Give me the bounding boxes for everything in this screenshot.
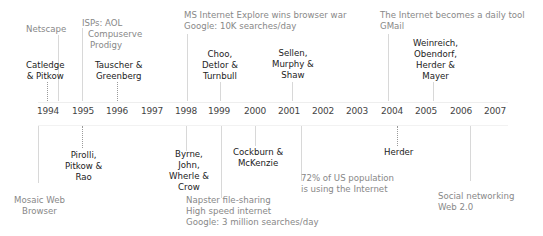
- year-label: 1996: [102, 106, 132, 116]
- author-line: Murphy &: [272, 59, 314, 70]
- connector-line: [220, 82, 221, 101]
- author-label-pirolli-pitkow-rao: Pirolli, Pitkow & Rao: [65, 150, 102, 183]
- year-label: 2007: [480, 106, 510, 116]
- event-line: MS Internet Explore wins browser war: [184, 10, 346, 21]
- connector-line: [38, 126, 39, 183]
- author-label-byrne-john-wherle-crow: Byrne, John, Wherle & Crow: [169, 149, 209, 193]
- author-line: Greenberg: [95, 71, 142, 82]
- year-label: 1995: [68, 106, 98, 116]
- author-label-herder: Herder: [384, 147, 413, 158]
- author-line: & Pitkow: [26, 71, 65, 82]
- author-line: Byrne,: [169, 149, 209, 160]
- year-label: 1994: [33, 106, 63, 116]
- event-line: Google: 10K searches/day: [184, 21, 346, 32]
- author-line: Crow: [169, 182, 209, 193]
- event-line: Compuserve: [82, 29, 142, 40]
- author-line: Turnbull: [202, 71, 238, 82]
- year-label: 1999: [204, 106, 234, 116]
- author-line: Detlor &: [202, 60, 238, 71]
- timeline-axis-bottom: [38, 125, 508, 126]
- year-label: 2006: [446, 106, 476, 116]
- author-label-cockburn-mckenzie: Cockburn & McKenzie: [233, 147, 283, 169]
- connector-line: [388, 34, 389, 101]
- connector-line: [186, 126, 187, 151]
- author-line: Cockburn &: [233, 147, 283, 158]
- connector-line: [187, 34, 188, 101]
- event-line: Browser: [14, 206, 65, 217]
- author-line: Choo,: [202, 49, 238, 60]
- event-label-isps: ISPs: AOL Compuserve Prodigy: [82, 18, 142, 51]
- author-label-choo-detlor-turnbull: Choo, Detlor & Turnbull: [202, 49, 238, 82]
- year-label: 1998: [171, 106, 201, 116]
- connector-line: [47, 82, 48, 101]
- author-label-tauscher-greenberg: Tauscher & Greenberg: [95, 60, 142, 82]
- author-line: Pitkow &: [65, 161, 102, 172]
- event-line: The Internet becomes a daily tool: [380, 10, 525, 21]
- author-label-sellen-murphy-shaw: Sellen, Murphy & Shaw: [272, 48, 314, 81]
- connector-line: [397, 126, 398, 146]
- event-line: Netscape: [26, 24, 66, 35]
- event-line: Napster file-sharing: [186, 195, 319, 206]
- event-line: Mosaic Web: [14, 195, 65, 206]
- author-line: Shaw: [272, 70, 314, 81]
- event-line: Prodigy: [82, 40, 142, 51]
- year-label: 2004: [377, 106, 407, 116]
- event-line: Web 2.0: [438, 202, 514, 213]
- year-label: 2000: [240, 106, 270, 116]
- author-line: Mayer: [413, 71, 458, 82]
- event-label-mosaic: Mosaic Web Browser: [14, 195, 65, 217]
- year-label: 2005: [411, 106, 441, 116]
- author-line: Rao: [65, 172, 102, 183]
- connector-line: [470, 126, 471, 181]
- author-line: Weinreich,: [413, 38, 458, 49]
- year-label: 2002: [308, 106, 338, 116]
- author-line: Sellen,: [272, 48, 314, 59]
- author-line: McKenzie: [233, 158, 283, 169]
- connector-line: [433, 82, 434, 101]
- event-line: Social networking: [438, 191, 514, 202]
- author-line: Tauscher &: [95, 60, 142, 71]
- author-line: Herder &: [413, 60, 458, 71]
- author-label-catledge-pitkow: Catledge & Pitkow: [26, 60, 65, 82]
- author-line: Obendorf,: [413, 49, 458, 60]
- event-label-netscape: Netscape: [26, 24, 66, 35]
- timeline-axis-top: [38, 102, 508, 103]
- connector-line: [82, 28, 83, 101]
- event-line: GMail: [380, 21, 525, 32]
- author-line: Herder: [384, 147, 413, 158]
- connector-line: [117, 82, 118, 101]
- year-label: 1997: [137, 106, 167, 116]
- connector-line: [221, 126, 222, 198]
- event-line: is using the Internet: [301, 184, 394, 195]
- event-label-ms-ie: MS Internet Explore wins browser war Goo…: [184, 10, 346, 32]
- event-label-daily-tool: The Internet becomes a daily tool GMail: [380, 10, 525, 32]
- event-label-napster: Napster file-sharing High speed internet…: [186, 195, 319, 228]
- connector-line: [82, 126, 83, 148]
- author-line: Pirolli,: [65, 150, 102, 161]
- event-line: ISPs: AOL: [82, 18, 142, 29]
- author-line: Wherle &: [169, 171, 209, 182]
- event-label-social-networking: Social networking Web 2.0: [438, 191, 514, 213]
- year-label: 2001: [274, 106, 304, 116]
- event-line: High speed internet: [186, 206, 319, 217]
- event-line: Google: 3 million searches/day: [186, 217, 319, 228]
- event-line: 72% of US population: [301, 173, 394, 184]
- year-label: 2003: [342, 106, 372, 116]
- connector-line: [255, 126, 256, 146]
- event-label-72-percent: 72% of US population is using the Intern…: [301, 173, 394, 195]
- author-line: Catledge: [26, 60, 65, 71]
- connector-line: [292, 82, 293, 101]
- author-line: John,: [169, 160, 209, 171]
- author-label-weinreich-obendorf-herder-mayer: Weinreich, Obendorf, Herder & Mayer: [413, 38, 458, 82]
- timeline-diagram: 1994 1995 1996 1997 1998 1999 2000 2001 …: [0, 0, 543, 236]
